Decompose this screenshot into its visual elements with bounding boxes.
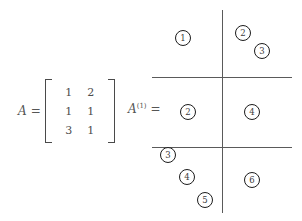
circled-number-2-row1-col2: 2 (235, 25, 251, 41)
grid-container: 123243456 (0, 0, 302, 221)
column-divider (222, 10, 223, 213)
circled-number-3-row3-col1: 3 (160, 147, 176, 163)
circled-number-6-row3-col2: 6 (244, 172, 260, 188)
circled-number-3-row1-col2: 3 (254, 43, 270, 59)
circled-number-2-row2-col1: 2 (180, 104, 196, 120)
circled-number-1-row1-col1: 1 (175, 30, 191, 46)
circled-number-4-row2-col2: 4 (244, 104, 260, 120)
math-figure: A = 1 2 1 1 3 1 A(1) = (0, 0, 302, 221)
circled-number-4-row3-col1: 4 (179, 169, 195, 185)
circled-number-5-row3-col1: 5 (197, 192, 213, 208)
